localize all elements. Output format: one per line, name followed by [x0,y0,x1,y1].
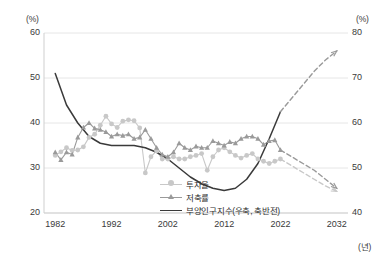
y-axis-left-tick-50: 50 [18,72,40,82]
data-point [160,157,165,162]
legend-item-3[interactable]: 부양인구지수(우축, 축반전) [160,204,280,216]
data-point [272,159,277,164]
y-axis-right-tick-40: 40 [352,207,374,217]
data-point [210,138,215,143]
legend-label: 투자율 [186,178,209,190]
x-axis-tick-2002: 2002 [155,219,181,229]
data-point [104,114,109,119]
y-axis-right-tick-60: 60 [352,117,374,127]
data-point [58,149,63,154]
data-point [115,131,120,136]
data-point [149,154,154,159]
chart-container: (%) (%) (년) 2030405060405060708019821992… [0,0,391,260]
data-point [132,118,137,123]
data-point [194,153,199,158]
data-point [115,125,120,130]
data-point [109,122,114,127]
data-point [75,135,80,140]
data-point [92,132,97,137]
x-axis-tick-1992: 1992 [99,219,125,229]
legend-label: 저축률 [186,191,209,203]
data-point [64,145,69,150]
y-axis-right-tick-80: 80 [352,27,374,37]
data-point [227,149,232,154]
y-axis-left-tick-30: 30 [18,162,40,172]
data-point [120,119,125,124]
data-point [261,159,266,164]
data-point [227,139,232,144]
data-point [182,157,187,162]
data-point [216,148,221,153]
data-point [193,144,198,149]
data-point [233,153,238,158]
legend-label: 부양인구지수(우축, 축반전) [186,204,280,216]
projection-line-저축률 (전망) [280,150,336,188]
data-point [177,140,182,145]
y-axis-right-tick-50: 50 [352,162,374,172]
legend-swatch-circle-icon [160,179,182,189]
data-point [188,154,193,159]
data-point [250,151,255,156]
data-point [239,156,244,161]
data-point [171,154,176,159]
data-point [126,117,131,122]
data-point [256,157,261,162]
data-point [210,154,215,159]
data-point [143,127,148,132]
data-point [98,123,103,128]
data-point [267,161,272,166]
data-point [75,148,80,153]
projection-line-투자율 (전망) [280,159,336,191]
data-point [126,131,131,136]
data-point [244,153,249,158]
y-axis-left-tick-20: 20 [18,207,40,217]
data-point [205,168,210,173]
legend-item-1[interactable]: 투자율 [160,178,209,190]
y-axis-right-tick-70: 70 [352,72,374,82]
data-point [87,135,92,140]
x-axis-tick-2032: 2032 [324,219,350,229]
series-line-부양인구지수(우축, 축반전) [55,74,280,191]
data-point [272,137,277,142]
data-point [81,144,86,149]
data-point [143,171,148,176]
x-axis-tick-2012: 2012 [211,219,237,229]
x-axis-tick-2022: 2022 [267,219,293,229]
data-point [177,157,182,162]
x-axis-tick-1982: 1982 [42,219,68,229]
y-axis-left-tick-40: 40 [18,117,40,127]
data-point [137,126,142,131]
y-axis-left-tick-60: 60 [18,27,40,37]
data-point [53,149,58,154]
legend-swatch-line-icon [160,205,182,215]
projection-line-부양인구지수 (전망) [280,51,336,112]
data-point [199,151,204,156]
data-point [64,149,69,154]
legend-item-2[interactable]: 저축률 [160,191,209,203]
legend-swatch-triangle-icon [160,192,182,202]
